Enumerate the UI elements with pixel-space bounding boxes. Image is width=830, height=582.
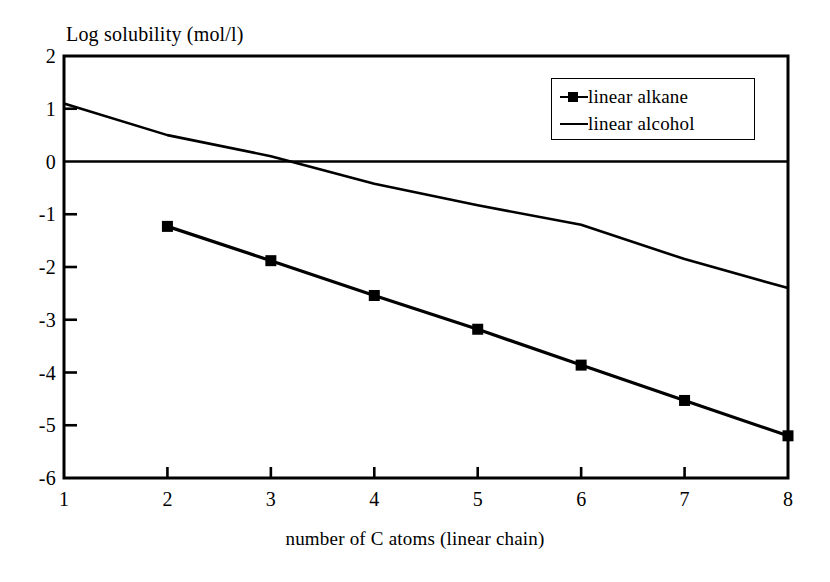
y-tick-label: 1 bbox=[10, 99, 56, 119]
data-point-marker bbox=[265, 255, 276, 266]
x-tick-label: 6 bbox=[561, 489, 601, 509]
legend-line-icon bbox=[560, 114, 588, 134]
x-tick-label: 3 bbox=[251, 489, 291, 509]
data-point-marker bbox=[369, 290, 380, 301]
y-tick-label: -6 bbox=[10, 468, 56, 488]
legend-label-linear-alcohol: linear alcohol bbox=[588, 114, 695, 134]
x-axis-title: number of C atoms (linear chain) bbox=[0, 527, 830, 550]
x-tick-label: 7 bbox=[665, 489, 705, 509]
y-tick-label: -2 bbox=[10, 257, 56, 277]
y-tick-label: 0 bbox=[10, 152, 56, 172]
x-tick-label: 4 bbox=[354, 489, 394, 509]
data-point-marker bbox=[472, 324, 483, 335]
legend-marker-square-icon bbox=[560, 87, 588, 107]
y-axis-ticks bbox=[64, 109, 77, 426]
legend-item-linear-alkane: linear alkane bbox=[560, 83, 754, 110]
x-tick-label: 1 bbox=[44, 489, 84, 509]
x-tick-label: 5 bbox=[458, 489, 498, 509]
y-tick-label: -1 bbox=[10, 204, 56, 224]
data-point-marker bbox=[783, 430, 794, 441]
legend-label-linear-alkane: linear alkane bbox=[588, 87, 688, 107]
x-axis-ticks bbox=[167, 467, 684, 478]
legend-item-linear-alcohol: linear alcohol bbox=[560, 110, 754, 137]
chart-figure: Log solubility (mol/l) 210-1-2-3-4-5-6 1… bbox=[0, 0, 830, 582]
y-tick-label: -3 bbox=[10, 310, 56, 330]
series-markers-linear-alkane bbox=[162, 221, 794, 441]
y-tick-label: 2 bbox=[10, 46, 56, 66]
y-axis-title: Log solubility (mol/l) bbox=[66, 22, 244, 46]
chart-legend: linear alkane linear alcohol bbox=[551, 78, 755, 140]
y-tick-label: -5 bbox=[10, 415, 56, 435]
data-point-marker bbox=[162, 221, 173, 232]
data-point-marker bbox=[679, 395, 690, 406]
data-point-marker bbox=[576, 360, 587, 371]
x-tick-label: 2 bbox=[147, 489, 187, 509]
y-tick-label: -4 bbox=[10, 363, 56, 383]
x-tick-label: 8 bbox=[768, 489, 808, 509]
